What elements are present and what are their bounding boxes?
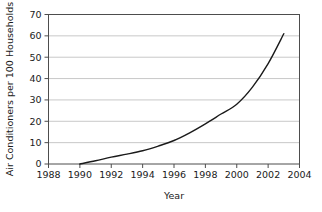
x-tick-label: 2000 <box>225 169 249 180</box>
x-tick-label: 1992 <box>99 169 123 180</box>
y-tick-label: 0 <box>35 158 41 169</box>
x-tick-label: 1990 <box>68 169 92 180</box>
x-axis-title: Year <box>163 190 184 201</box>
x-tick-label: 2002 <box>256 169 280 180</box>
y-tick-label: 70 <box>29 9 41 20</box>
y-tick-label: 30 <box>29 94 41 105</box>
x-tick-label: 1988 <box>36 169 60 180</box>
y-tick-label: 20 <box>29 116 41 127</box>
y-tick-label: 10 <box>29 137 41 148</box>
x-tick-label: 1998 <box>193 169 217 180</box>
y-axis-title: Air Conditioners per 100 Households <box>4 2 15 176</box>
x-tick-label: 1996 <box>162 169 186 180</box>
y-tick-label: 40 <box>29 73 41 84</box>
y-tick-label: 60 <box>29 30 41 41</box>
x-tick-label: 1994 <box>131 169 155 180</box>
line-chart: 010203040506070 198819901992199419961998… <box>0 0 322 212</box>
x-axis-tick-labels: 198819901992199419961998200020022004 <box>36 169 311 180</box>
y-tick-label: 50 <box>29 52 41 63</box>
x-tick-label: 2004 <box>287 169 311 180</box>
chart-container: 010203040506070 198819901992199419961998… <box>0 0 322 212</box>
